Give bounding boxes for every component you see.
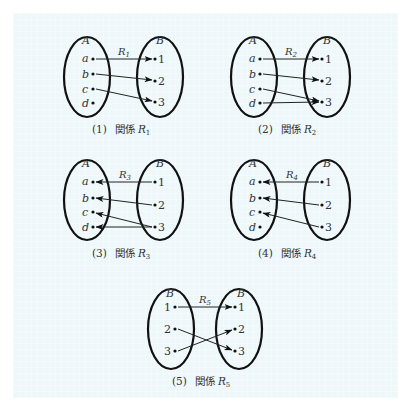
arrow-b-2 — [96, 74, 152, 80]
element-1: 1 — [158, 53, 165, 66]
element-c: c — [249, 206, 255, 219]
relation-label: R4 — [285, 169, 298, 182]
element-c: c — [82, 206, 88, 219]
element-2: 2 — [325, 199, 332, 212]
element-a: a — [249, 175, 256, 188]
relation-label: R2 — [284, 46, 298, 59]
arrow-2-3 — [178, 329, 232, 350]
element-2: 2 — [325, 75, 332, 88]
element-b: b — [249, 192, 256, 205]
relation-label: R3 — [118, 169, 132, 182]
element-3: 3 — [158, 96, 165, 109]
left-element-2: 2 — [164, 323, 171, 336]
diagram-1: A B a b c d 1 2 3 R1 (1)関係R1 — [64, 34, 183, 137]
relation-label: R5 — [198, 294, 212, 307]
element-b: b — [249, 68, 256, 81]
left-element-3: 3 — [164, 345, 171, 358]
set-a-label: A — [81, 34, 90, 47]
element-d: d — [249, 221, 256, 234]
element-2: 2 — [158, 75, 165, 88]
element-1: 1 — [325, 53, 332, 66]
left-element-1: 1 — [164, 301, 171, 314]
element-3: 3 — [325, 221, 332, 234]
set-b-right-label: B — [236, 287, 245, 300]
element-3: 3 — [325, 96, 332, 109]
arrow-c-3 — [263, 89, 319, 101]
element-2: 2 — [158, 199, 165, 212]
caption: (1)関係R1 — [92, 123, 150, 137]
set-b-label: B — [322, 157, 331, 170]
caption: (4)関係R4 — [258, 247, 317, 261]
element-d: d — [82, 221, 89, 234]
element-b: b — [82, 192, 89, 205]
diagram-5: B B 1 2 3 1 2 3 R5 (5)関係R5 — [148, 287, 262, 389]
element-1: 1 — [158, 176, 165, 189]
element-d: d — [82, 97, 89, 110]
set-b-label: B — [155, 34, 164, 47]
element-b: b — [82, 68, 89, 81]
caption: (2)関係R2 — [258, 123, 316, 137]
arrow-b-2 — [263, 74, 319, 80]
element-a: a — [82, 175, 89, 188]
right-element-2: 2 — [238, 323, 245, 336]
set-b-label: B — [322, 34, 331, 47]
caption: (3)関係R3 — [92, 247, 150, 261]
diagram-2: A B a b c d 1 2 3 R2 (2)関係R2 — [231, 34, 350, 137]
element-d: d — [249, 97, 256, 110]
set-b-left-ellipse — [148, 289, 194, 369]
arrow-2-b — [96, 198, 152, 205]
right-element-3: 3 — [238, 345, 245, 358]
set-a-label: A — [248, 34, 257, 47]
relations-figure: A B a b c d 1 2 3 R1 (1)関係R1 A B a b c d… — [0, 0, 411, 411]
right-element-1: 1 — [238, 301, 245, 314]
set-a-label: A — [248, 157, 257, 170]
set-b-left-label: B — [165, 287, 174, 300]
element-c: c — [249, 83, 255, 96]
element-a: a — [249, 52, 256, 65]
diagram-4: A B a b c d 1 2 3 R4 (4)関係R4 — [231, 157, 350, 261]
relation-label: R1 — [117, 46, 130, 59]
arrow-2-b — [263, 198, 319, 205]
element-c: c — [82, 83, 88, 96]
element-a: a — [82, 52, 89, 65]
element-1: 1 — [325, 176, 332, 189]
arrow-c-3 — [96, 89, 152, 101]
caption: (5)関係R5 — [172, 375, 230, 389]
diagram-3: A B a b c d 1 2 3 R3 (3)関係R3 — [64, 157, 183, 261]
arrow-3-2 — [178, 330, 232, 351]
set-b-label: B — [155, 157, 164, 170]
element-3: 3 — [158, 221, 165, 234]
set-a-label: A — [81, 157, 90, 170]
